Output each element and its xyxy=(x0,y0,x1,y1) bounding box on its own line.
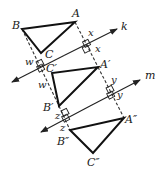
triangle-a1b1c1 xyxy=(52,67,98,106)
label-line-m: m xyxy=(145,69,155,82)
label-x-upper: x xyxy=(88,27,94,38)
label-y-upper: y xyxy=(110,74,117,85)
label-a: A xyxy=(71,7,80,20)
label-c-prime: C′ xyxy=(46,62,57,75)
label-z-lower: z xyxy=(59,122,66,133)
label-c: C xyxy=(45,48,54,61)
label-w-upper: w xyxy=(25,56,34,67)
label-y-lower: y xyxy=(116,89,123,100)
label-b: B xyxy=(11,19,20,32)
label-b-prime: B′ xyxy=(42,101,54,114)
label-a-prime: A′ xyxy=(99,58,111,71)
label-w-lower: w xyxy=(38,79,47,90)
label-z-upper: z xyxy=(54,110,61,121)
label-c-double-prime: C″ xyxy=(87,156,100,169)
label-b-double-prime: B″ xyxy=(56,135,70,148)
label-a-double-prime: A″ xyxy=(124,113,138,126)
label-line-k: k xyxy=(121,20,128,33)
triangle-a2b2c2 xyxy=(70,118,124,153)
reflection-diagram: A B C A′ B′ C′ A″ B″ C″ k m x x w w y y … xyxy=(0,0,164,175)
label-x-lower: x xyxy=(95,43,101,54)
